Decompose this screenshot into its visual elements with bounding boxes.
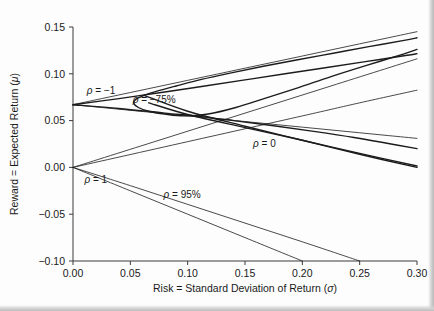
- risk-reward-frontier-chart: 0.000.050.100.150.200.250.30 −0.10−0.050…: [0, 0, 434, 311]
- frontier-curve: [73, 167, 302, 261]
- y-axis-title: Reward = Expected Return (μ): [8, 73, 20, 215]
- x-tick-label: 0.15: [235, 267, 256, 279]
- frontier-curve: [73, 59, 417, 168]
- curve-annotation: ρ = 0: [252, 138, 276, 149]
- y-tick-label: 0.15: [45, 21, 66, 33]
- x-axis-ticks: 0.000.050.100.150.200.250.30: [63, 261, 428, 279]
- y-tick-label: 0.10: [45, 68, 66, 80]
- x-tick-label: 0.20: [292, 267, 313, 279]
- frontier-curve: [73, 54, 417, 105]
- frontier-curves: [73, 32, 417, 261]
- y-tick-label: 0.05: [45, 114, 66, 126]
- y-tick-label: −0.10: [38, 255, 65, 267]
- curve-annotation: ρ = −1: [86, 85, 116, 96]
- y-tick-label: −0.05: [38, 208, 65, 220]
- y-axis-ticks: −0.10−0.050.000.050.100.15: [38, 21, 73, 267]
- figure-canvas: 0.000.050.100.150.200.250.30 −0.10−0.050…: [0, 0, 434, 311]
- x-axis-title: Risk = Standard Deviation of Return (σ): [153, 282, 337, 294]
- curve-annotation: ρ = 1: [83, 174, 107, 185]
- frontier-curve: [144, 38, 417, 96]
- curve-annotation: ρ = −75%: [132, 94, 176, 105]
- frontier-curve: [73, 167, 360, 261]
- x-tick-label: 0.30: [407, 267, 428, 279]
- x-tick-label: 0.10: [177, 267, 198, 279]
- frontier-curve: [73, 32, 417, 105]
- curve-annotation: ρ = 95%: [163, 189, 201, 200]
- x-tick-label: 0.05: [120, 267, 141, 279]
- x-tick-label: 0.00: [63, 267, 84, 279]
- x-tick-label: 0.25: [349, 267, 370, 279]
- y-tick-label: 0.00: [45, 161, 66, 173]
